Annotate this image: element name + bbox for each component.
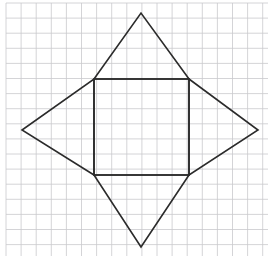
geometry-figure-svg xyxy=(0,0,273,270)
figure-canvas xyxy=(0,0,273,270)
